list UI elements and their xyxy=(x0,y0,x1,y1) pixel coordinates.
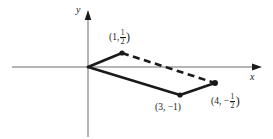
fraction-numerator: 1 xyxy=(120,29,126,37)
x-axis-arrowhead xyxy=(252,64,262,71)
vector-parallelogram-figure: y x (1, 1 2 ) (3, −1) (4, − 1 2 ) xyxy=(0,0,273,139)
point-marker-p2 xyxy=(177,92,182,97)
point-marker-p1 xyxy=(119,50,124,55)
segment-origin-to-p2 xyxy=(88,67,180,95)
segment-p2-to-p3 xyxy=(180,83,215,95)
point-label-p3-prefix: (4, − xyxy=(211,97,229,107)
x-axis-label: x xyxy=(250,72,254,82)
fraction-numerator: 1 xyxy=(230,93,236,101)
fraction-denominator: 2 xyxy=(120,38,126,46)
fraction-denominator: 2 xyxy=(230,102,236,110)
segment-p1-to-p3-dashed xyxy=(122,53,215,83)
y-axis-label: y xyxy=(76,5,80,15)
point-label-p1-suffix: ) xyxy=(126,31,130,43)
point-label-p1: (1, 1 2 ) xyxy=(109,29,130,46)
fraction-one-half-p1: 1 2 xyxy=(120,29,126,46)
y-axis xyxy=(85,10,92,137)
point-label-p3: (4, − 1 2 ) xyxy=(211,93,240,110)
point-label-p3-suffix: ) xyxy=(236,95,240,107)
segment-origin-to-p1 xyxy=(88,53,122,67)
coordinate-plot xyxy=(0,0,273,139)
fraction-one-half-p3: 1 2 xyxy=(230,93,236,110)
y-axis-arrowhead xyxy=(85,10,92,20)
x-axis xyxy=(12,64,262,71)
point-label-p1-prefix: (1, xyxy=(109,33,119,43)
point-label-p2: (3, −1) xyxy=(155,103,181,113)
point-marker-p3 xyxy=(212,80,218,86)
